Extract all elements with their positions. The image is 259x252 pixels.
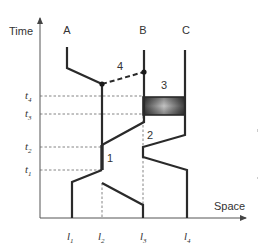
l2-label: l2 — [98, 230, 105, 245]
path-agent-b-lower — [102, 183, 143, 218]
event-1-label: 1 — [107, 152, 113, 164]
path-agent-a-lower — [72, 170, 102, 218]
t1-label: t1 — [25, 163, 32, 178]
path-agent-a-top — [67, 47, 102, 84]
edge-artifacts — [257, 129, 258, 179]
t2-label: t2 — [25, 140, 32, 155]
agent-c-label: C — [182, 24, 190, 36]
event-3-box — [143, 97, 185, 115]
l4-label: l4 — [184, 230, 191, 245]
l1-label: l1 — [67, 230, 74, 245]
agent-labels: A B C — [63, 24, 190, 36]
time-tick-labels: t4 t3 t2 t1 — [25, 89, 32, 178]
axes: Time Space — [9, 18, 246, 218]
dot-start — [99, 81, 104, 86]
event-4-label: 4 — [117, 60, 123, 72]
time-guides — [40, 96, 143, 170]
y-axis-label: Time — [9, 25, 33, 37]
trajectories — [67, 47, 187, 218]
location-tick-labels: l1 l2 l3 l4 — [67, 230, 191, 245]
t4-label: t4 — [25, 89, 32, 104]
space-time-diagram: Time Space t4 t3 t2 t1 l1 l2 l3 l4 A B C — [0, 0, 259, 252]
agent-a-label: A — [63, 24, 71, 36]
x-axis-label: Space — [214, 200, 245, 212]
agent-b-label: B — [139, 24, 146, 36]
l3-label: l3 — [140, 230, 147, 245]
dot-end — [141, 69, 146, 74]
event-3-label: 3 — [161, 79, 167, 91]
t3-label: t3 — [25, 107, 32, 122]
event-2-label: 2 — [147, 129, 153, 141]
dashed-communication — [102, 72, 144, 84]
